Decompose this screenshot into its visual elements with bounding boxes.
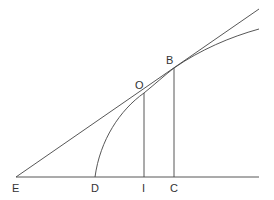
label-B: B	[166, 54, 173, 66]
label-E: E	[12, 182, 19, 194]
tangent-line	[16, 9, 259, 177]
label-C: C	[170, 182, 178, 194]
geometry-diagram: E D I C O B	[0, 0, 274, 200]
label-I: I	[142, 182, 145, 194]
label-O: O	[135, 79, 144, 91]
label-D: D	[91, 182, 99, 194]
curve	[95, 29, 259, 177]
